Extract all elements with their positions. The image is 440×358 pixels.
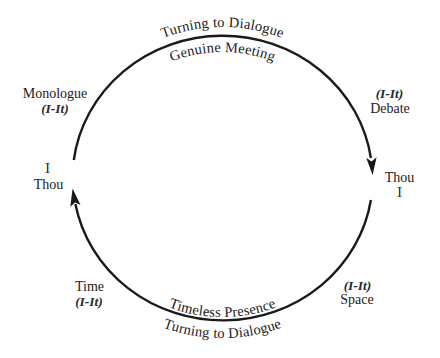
upper-left-group: Monologue (I-It) bbox=[23, 86, 88, 116]
time-label: Time bbox=[75, 279, 104, 294]
right-pole-line2: I bbox=[397, 185, 402, 200]
left-pole-line1: I bbox=[45, 161, 50, 176]
top-inner-label-path: Genuine Meeting bbox=[167, 39, 277, 64]
upper-left-relation: (I-It) bbox=[41, 101, 69, 116]
lower-left-relation: (I-It) bbox=[75, 294, 103, 309]
right-pole-line1: Thou bbox=[385, 170, 415, 185]
left-pole: I Thou bbox=[34, 161, 64, 192]
lower-right-relation: (I-It) bbox=[344, 278, 372, 293]
diagram-canvas: Turning to Dialogue Genuine Meeting Time… bbox=[0, 0, 440, 358]
left-pole-line2: Thou bbox=[34, 177, 64, 192]
dialogue-cycle-diagram: Turning to Dialogue Genuine Meeting Time… bbox=[0, 0, 440, 358]
bottom-arc-arrow bbox=[70, 189, 371, 321]
monologue-label: Monologue bbox=[23, 86, 88, 101]
top-inner-label: Genuine Meeting bbox=[167, 39, 277, 64]
upper-right-group: (I-It) Debate bbox=[370, 86, 410, 116]
space-label: Space bbox=[340, 292, 373, 307]
top-arc-arrow bbox=[74, 36, 377, 175]
lower-left-group: Time (I-It) bbox=[75, 279, 104, 309]
debate-label: Debate bbox=[370, 101, 410, 116]
upper-right-relation: (I-It) bbox=[376, 86, 404, 101]
right-pole: Thou I bbox=[385, 170, 415, 200]
lower-right-group: (I-It) Space bbox=[340, 278, 373, 307]
arrowhead-down-icon bbox=[366, 157, 376, 175]
bottom-arc bbox=[75, 200, 371, 320]
